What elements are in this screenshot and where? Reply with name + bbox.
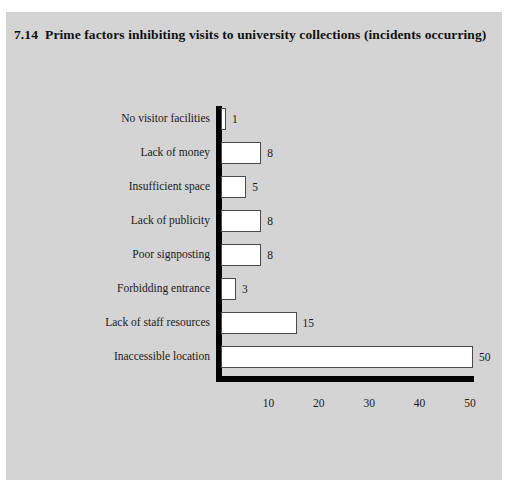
category-label-1: No visitor facilities xyxy=(24,112,210,124)
bar-6 xyxy=(221,278,236,300)
x-axis-line xyxy=(216,376,474,382)
bar-value-label-6: 3 xyxy=(242,283,248,295)
bar-chart-plot: No visitor facilities1Lack of money8Insu… xyxy=(0,0,506,493)
category-label-text: Insufficient space xyxy=(24,180,210,192)
bar-5 xyxy=(221,244,261,266)
x-tick-label-30: 30 xyxy=(354,397,384,409)
category-label-text: Lack of staff resources xyxy=(24,316,210,328)
bar-4 xyxy=(221,210,261,232)
x-tick-label-10: 10 xyxy=(253,397,283,409)
bar-value-label-8: 50 xyxy=(479,351,491,363)
x-tick-label-50: 50 xyxy=(455,397,485,409)
category-label-text: Inaccessible location xyxy=(24,350,210,362)
bar-value-label-2: 8 xyxy=(267,147,273,159)
bar-1 xyxy=(221,108,226,130)
category-label-3: Insufficient space xyxy=(24,180,210,192)
category-label-4: Lack of publicity xyxy=(24,214,210,226)
category-label-text: Lack of money xyxy=(24,146,210,158)
figure-page: 7.14Prime factors inhibiting visits to u… xyxy=(0,0,506,493)
bar-value-label-5: 8 xyxy=(267,249,273,261)
category-label-text: Lack of publicity xyxy=(24,214,210,226)
bar-7 xyxy=(221,312,297,334)
category-label-2: Lack of money xyxy=(24,146,210,158)
category-label-5: Poor signposting xyxy=(24,248,210,260)
bar-2 xyxy=(221,142,261,164)
category-label-text: Poor signposting xyxy=(24,248,210,260)
bar-3 xyxy=(221,176,246,198)
category-label-7: Lack of staff resources xyxy=(24,316,210,328)
bar-value-label-4: 8 xyxy=(267,215,273,227)
bar-8 xyxy=(221,346,473,368)
category-label-text: Forbidding entrance xyxy=(24,282,210,294)
category-label-6: Forbidding entrance xyxy=(24,282,210,294)
bar-value-label-7: 15 xyxy=(303,317,315,329)
bar-value-label-3: 5 xyxy=(252,181,258,193)
x-tick-label-40: 40 xyxy=(405,397,435,409)
category-label-8: Inaccessible location xyxy=(24,350,210,362)
x-tick-label-20: 20 xyxy=(304,397,334,409)
bar-value-label-1: 1 xyxy=(232,113,238,125)
category-label-text: No visitor facilities xyxy=(24,112,210,124)
